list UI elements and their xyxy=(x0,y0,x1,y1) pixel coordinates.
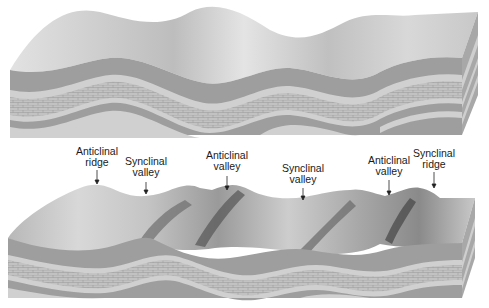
label-anticlinal-ridge: Anticlinal ridge xyxy=(72,146,122,168)
label-anticlinal-valley-2: Anticlinal valley xyxy=(364,155,414,177)
label-synclinal-ridge: Synclinal ridge xyxy=(409,148,459,170)
label-synclinal-valley-2: Synclinal valley xyxy=(278,163,328,185)
label-anticlinal-valley-1: Anticlinal valley xyxy=(202,150,252,172)
label-synclinal-valley-1: Synclinal valley xyxy=(121,156,171,178)
top-block xyxy=(10,7,478,138)
bottom-block xyxy=(8,170,475,300)
